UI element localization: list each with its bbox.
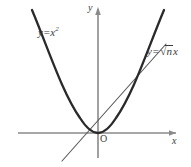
- line-equation-label: y=√nx: [147, 45, 178, 57]
- y-axis-label: y: [88, 3, 92, 13]
- radicand: n: [165, 45, 173, 57]
- parabola-equation-label: y=x2: [38, 26, 59, 38]
- line-label-equals: =: [152, 45, 159, 57]
- y-axis-arrow-icon: [95, 7, 101, 15]
- x-axis-label: x: [172, 136, 176, 146]
- math-figure: y=x2 y=√nx x y O: [0, 0, 191, 167]
- line-curve-sqrt-n-x: [62, 44, 166, 161]
- line-label-factor: x: [173, 45, 178, 57]
- radical-group: √n: [159, 45, 173, 57]
- graph-canvas: [0, 0, 191, 167]
- origin-label: O: [100, 134, 107, 144]
- parabola-label-exponent: 2: [55, 25, 59, 33]
